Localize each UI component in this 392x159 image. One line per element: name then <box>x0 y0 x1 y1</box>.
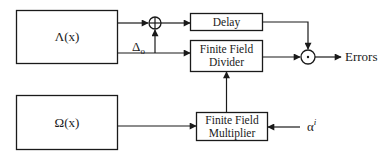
divider-label-line1: Finite Field <box>200 43 254 55</box>
alpha-label: αi <box>307 117 317 134</box>
xor-adder-icon <box>149 17 161 29</box>
delay-label: Delay <box>213 16 241 29</box>
lambda-label: Λ(x) <box>55 29 80 44</box>
omega-label: Ω(x) <box>55 115 80 130</box>
lambda-block: Λ(x) <box>17 11 118 64</box>
decoder-block-diagram: Λ(x) Ω(x) Delay Finite Field Divider Fin… <box>0 0 392 159</box>
wire-delay-to-node <box>263 22 309 49</box>
delta-label: Δo <box>132 39 145 56</box>
multiplier-block: Finite Field Multiplier <box>197 113 268 141</box>
multiplier-label-line1: Finite Field <box>205 114 259 126</box>
errors-label: Errors <box>345 49 378 64</box>
multiplier-label-line2: Multiplier <box>209 127 256 140</box>
delay-block: Delay <box>191 14 263 31</box>
dot-multiplier-icon <box>301 50 315 64</box>
divider-label-line2: Divider <box>209 56 244 68</box>
omega-block: Ω(x) <box>17 96 118 150</box>
divider-block: Finite Field Divider <box>191 41 263 72</box>
